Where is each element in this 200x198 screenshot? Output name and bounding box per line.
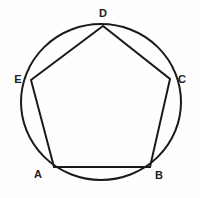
circumscribed-circle	[21, 24, 181, 180]
inscribed-pentagon	[31, 26, 170, 167]
vertex-label-b: B	[155, 170, 163, 181]
figure-canvas	[0, 0, 200, 198]
geometry-figure: D E C A B	[0, 0, 200, 198]
vertex-label-d: D	[99, 8, 107, 19]
vertex-label-c: C	[178, 74, 186, 85]
vertex-label-a: A	[34, 169, 42, 180]
vertex-label-e: E	[14, 74, 21, 85]
